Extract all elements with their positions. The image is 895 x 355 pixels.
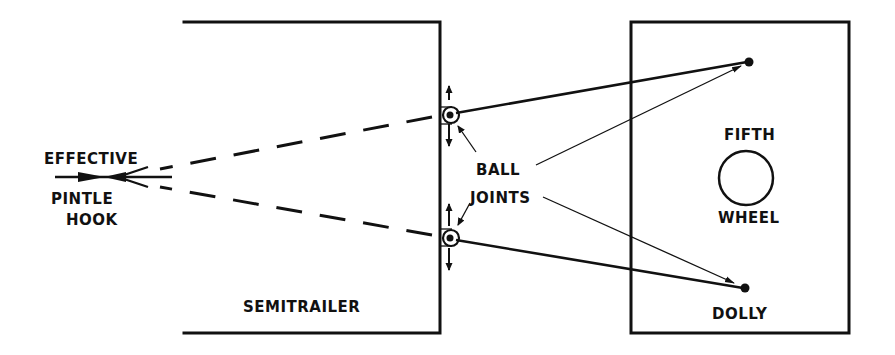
label-ball: BALL — [476, 161, 520, 179]
drawbar-lower — [456, 240, 743, 288]
label-fifth: FIFTH — [724, 126, 775, 144]
drawbar-upper — [456, 62, 747, 113]
label-effective: EFFECTIVE — [44, 150, 138, 168]
projection-line-lower — [160, 187, 432, 235]
label-pintle: PINTLE — [51, 190, 113, 208]
label-dolly: DOLLY — [712, 305, 768, 323]
label-joints: JOINTS — [469, 189, 531, 207]
label-hook: HOOK — [66, 211, 119, 229]
effective-pintle-hook-symbol — [55, 167, 172, 187]
ball-joint-lower — [440, 204, 459, 270]
fifth-wheel-circle — [719, 151, 773, 205]
ball-joint-upper — [440, 86, 459, 146]
dolly-hitch-diagram: EFFECTIVE PINTLE HOOK BALL JOINTS FIFTH … — [0, 0, 895, 355]
label-wheel: WHEEL — [718, 209, 780, 227]
label-semitrailer: SEMITRAILER — [243, 298, 360, 316]
semitrailer-body — [184, 22, 440, 333]
projection-line-upper — [160, 117, 432, 169]
